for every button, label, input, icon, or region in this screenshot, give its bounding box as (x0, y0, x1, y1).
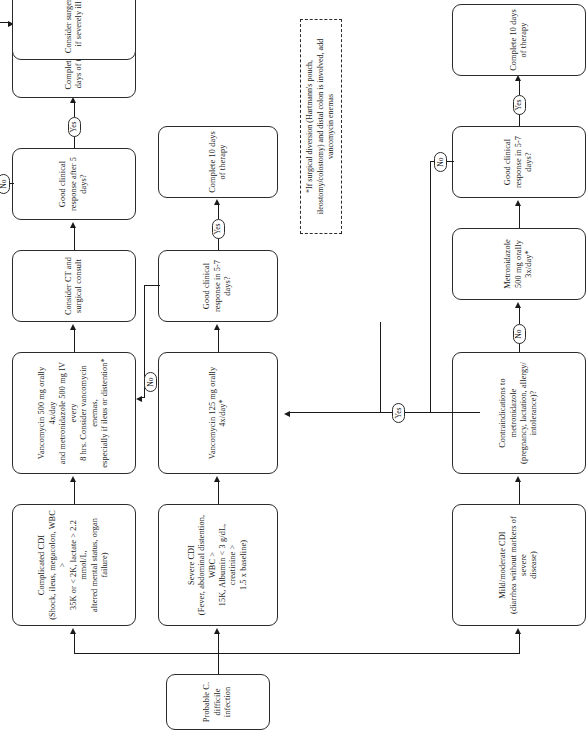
edge-mild-to-contraindications (519, 480, 520, 504)
edge-label-response-mild-yes: Yes (513, 95, 526, 115)
arrow-vanco-combo-to-ct (70, 324, 76, 330)
edge-label-response-complicated-no: No (0, 174, 10, 194)
edge-complicated-to-vanco-combo (74, 480, 75, 504)
edge-start-trunk (218, 654, 219, 674)
arrow-complicated-to-vanco-combo (70, 476, 76, 482)
edge-resp-severe-no-up (142, 397, 144, 398)
arrow-contra-no-to-metronidazole (515, 302, 521, 308)
edge-trunk-to-mild (519, 632, 520, 654)
node-complete-10-days-severe: Complete 10 days of therapy (158, 126, 278, 198)
node-contraindications-text: Contraindications to metronidazole (preg… (498, 357, 540, 469)
node-mild-moderate-cdi-text: Mild/moderate CDI (diarrhea without mark… (498, 509, 540, 621)
edge-label-response-mild-yes-text: Yes (515, 99, 523, 110)
node-contraindications-line-0: Contraindications to metronidazole (498, 357, 519, 469)
node-response-severe: Good clinical response in 5-7 days? (158, 250, 278, 322)
node-vancomycin-combo-line-2: 8 hrs. Consider vancomycin enemas, (79, 357, 100, 469)
node-consider-surgery-line-0: Consider surgery if severely ill (64, 0, 85, 55)
edge-label-response-mild-no: No (434, 152, 447, 172)
edge-vanco-combo-to-ct (74, 328, 75, 352)
node-vancomycin-125: Vancomycin 125 mg orally 4x/day* (158, 352, 278, 474)
node-ct-surgical-consult-line-0: Consider CT and surgical consult (64, 255, 85, 317)
edge-label-response-mild-no-text: No (437, 157, 445, 166)
node-vancomycin-combo-line-3: especially if ileus or distention* (100, 357, 110, 469)
node-complicated-cdi: Complicated CDI (Shock, ileus, megacolon… (12, 504, 136, 626)
arrow-to-complicated (70, 628, 76, 634)
edge-trunk-to-complicated (74, 632, 75, 654)
edge-ct-to-response-complicated (74, 226, 75, 250)
node-complicated-cdi-line-1: (Shock, ileus, megacolon, WBC > (48, 509, 69, 621)
arrow-severe-to-vanco125 (214, 476, 220, 482)
edge-label-response-severe-no-text: No (147, 377, 155, 386)
edge-resp-mild-yes-h2 (519, 79, 520, 95)
edge-resp-mild-no-h (430, 161, 431, 413)
node-start: Probable C. difficile infection (166, 674, 270, 730)
node-severe-cdi-line-1: (Fever, abdominal distention, WBC > (197, 509, 218, 621)
edge-label-response-complicated-yes-text: Yes (70, 121, 78, 132)
node-vancomycin-combo-line-0: Vancomycin 500 mg orally 4x/day (37, 357, 58, 469)
edge-contra-yes-h (380, 322, 381, 352)
arrow-to-severe (214, 628, 220, 634)
edge-label-contraindications-no-text: No (515, 329, 523, 338)
node-complicated-cdi-line-2: 35K or < 2K, lactate > 2.2 mmol/L, (69, 509, 90, 621)
edge-label-response-complicated-yes: Yes (68, 117, 81, 137)
edge-label-response-severe-yes: Yes (212, 219, 225, 239)
edge-contra-yes-h2 (380, 352, 381, 413)
node-response-complicated-line-0: Good clinical response after 5 days? (58, 153, 89, 215)
arrow-mild-to-contraindications (515, 476, 521, 482)
edge-metronidazole-to-response (519, 204, 520, 228)
node-response-complicated: Good clinical response after 5 days? (12, 148, 136, 220)
arrow-ct-to-response-complicated (70, 222, 76, 228)
node-mild-moderate-cdi-line-1: (diarrhea without markers of severe (509, 509, 530, 621)
edge-label-response-complicated-no-text: No (0, 179, 7, 188)
edge-resp-comp-yes-h2 (74, 101, 75, 117)
edge-contra-no-h2 (519, 306, 520, 324)
node-vancomycin-combo: Vancomycin 500 mg orally 4x/day and metr… (12, 352, 136, 474)
footnote-line-1: and distal colon is involved, add vancom… (316, 39, 335, 159)
node-response-mild-line-0: Good clinical response in 5-7 days? (503, 131, 534, 193)
node-complete-10-days-severe-line-0: Complete 10 days of therapy (208, 131, 229, 193)
node-metronidazole-line-0: Metronidazole 500 mg orally 3x/day* (503, 233, 534, 295)
edge-resp-severe-yes-h2 (218, 203, 219, 219)
edge-label-contraindications-yes: Yes (392, 403, 405, 423)
node-complete-10-days-mild: Complete 10 days of therapy (452, 4, 586, 76)
arrow-contra-yes-to-vanco125 (284, 411, 290, 417)
node-complicated-cdi-text: Complicated CDI (Shock, ileus, megacolon… (37, 509, 110, 621)
node-vancomycin-125-line-0: Vancomycin 125 mg orally 4x/day* (208, 357, 229, 469)
node-complicated-cdi-line-3: altered mental status, organ failure) (90, 509, 111, 621)
edge-label-contraindications-yes-text: Yes (395, 407, 403, 418)
arrow-metronidazole-to-response (515, 200, 521, 206)
node-response-mild: Good clinical response in 5-7 days? (452, 126, 586, 198)
edge-label-response-severe-no: No (144, 372, 157, 392)
node-vancomycin-combo-text: Vancomycin 500 mg orally 4x/day and metr… (37, 357, 110, 469)
node-contraindications-line-1: (pregnancy, lactation, allergy/ (519, 357, 529, 469)
node-mild-moderate-cdi-line-2: disease) (529, 509, 539, 621)
edge-severe-to-vanco125 (218, 480, 219, 504)
node-vancomycin-combo-line-1: and metronidazole 500 mg IV every (58, 357, 79, 469)
edge-vanco125-to-response (218, 328, 219, 352)
node-metronidazole: Metronidazole 500 mg orally 3x/day* (452, 228, 586, 300)
edge-trunk-vertical (74, 653, 519, 654)
node-complicated-cdi-line-0: Complicated CDI (37, 509, 47, 621)
node-severe-cdi-text: Severe CDI (Fever, abdominal distention,… (187, 509, 250, 621)
node-severe-cdi: Severe CDI (Fever, abdominal distention,… (158, 504, 278, 626)
node-contraindications-line-2: intolerance)? (529, 357, 539, 469)
footnote-box: *If surgical diversion (Hartmann's pouch… (300, 19, 342, 234)
node-ct-surgical-consult: Consider CT and surgical consult (12, 250, 136, 322)
edge-label-contraindications-no: No (513, 324, 526, 344)
node-start-line-0: Probable C. difficile infection (202, 679, 233, 725)
node-mild-moderate-cdi: Mild/moderate CDI (diarrhea without mark… (452, 504, 586, 626)
node-complete-10-days-mild-line-0: Complete 10 days of therapy (509, 9, 530, 71)
edge-resp-severe-no-v (144, 285, 160, 286)
footnote-text: *If surgical diversion (Hartmann's pouch… (305, 26, 336, 227)
node-contraindications: Contraindications to metronidazole (preg… (452, 352, 586, 474)
node-severe-cdi-line-3: 1.5 x baseline) (239, 509, 249, 621)
arrow-resp-severe-yes (214, 199, 220, 205)
node-consider-surgery: Consider surgery if severely ill (12, 0, 136, 60)
arrow-resp-severe-no-to-vanco-combo (136, 396, 142, 402)
edge-trunk-to-severe (218, 632, 219, 654)
node-mild-moderate-cdi-line-0: Mild/moderate CDI (498, 509, 508, 621)
edge-label-response-severe-yes-text: Yes (214, 223, 222, 234)
edge-contra-yes-up (290, 412, 382, 413)
node-response-severe-line-0: Good clinical response in 5-7 days? (202, 255, 233, 317)
